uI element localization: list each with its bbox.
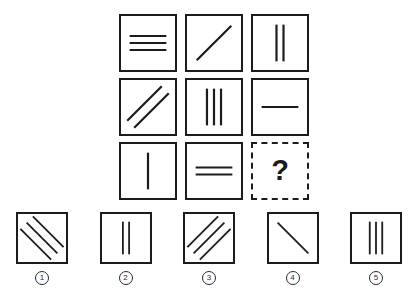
matrix-cell-r1c2[interactable] xyxy=(185,14,243,72)
answer-options: 1 2 3 4 5 xyxy=(16,212,402,285)
answer-option-5-number: 5 xyxy=(369,271,383,285)
answer-option-3-number: 3 xyxy=(202,271,216,285)
answer-option-2[interactable]: 2 xyxy=(100,212,152,285)
matrix-cell-r2c3[interactable] xyxy=(251,78,309,136)
answer-option-1-figure[interactable] xyxy=(16,212,68,264)
answer-option-4-figure[interactable] xyxy=(267,212,319,264)
matrix-cell-r2c2[interactable] xyxy=(185,78,243,136)
matrix-cell-r1c1[interactable] xyxy=(119,14,177,72)
answer-option-1[interactable]: 1 xyxy=(16,212,68,285)
matrix-cell-r3c1[interactable] xyxy=(119,142,177,200)
answer-option-4[interactable]: 4 xyxy=(267,212,319,285)
answer-option-4-number: 4 xyxy=(286,271,300,285)
matrix-cell-r2c1[interactable] xyxy=(119,78,177,136)
answer-option-5-figure[interactable] xyxy=(350,212,402,264)
answer-option-5[interactable]: 5 xyxy=(350,212,402,285)
answer-option-3[interactable]: 3 xyxy=(183,212,235,285)
answer-option-2-figure[interactable] xyxy=(100,212,152,264)
matrix-cell-r3c3-missing[interactable]: ? xyxy=(251,142,309,200)
answer-option-2-number: 2 xyxy=(119,271,133,285)
matrix-reasoning-puzzle: ? 1 2 3 4 5 xyxy=(0,0,418,304)
answer-option-3-figure[interactable] xyxy=(183,212,235,264)
matrix-cell-r3c2[interactable] xyxy=(185,142,243,200)
question-mark-label: ? xyxy=(271,156,289,185)
matrix-cell-r1c3[interactable] xyxy=(251,14,309,72)
matrix-grid: ? xyxy=(119,14,309,200)
answer-option-1-number: 1 xyxy=(35,271,49,285)
